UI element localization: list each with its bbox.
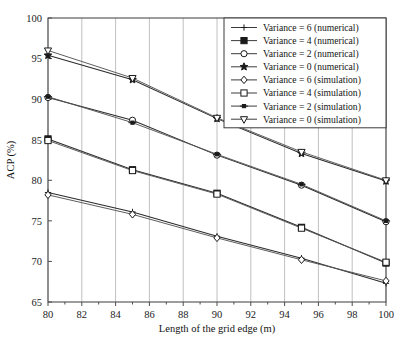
data-point-s5-p4 [383, 259, 389, 265]
y-tick-label: 100 [26, 13, 42, 24]
legend-label-4: Variance = 6 (simulation) [263, 74, 361, 86]
y-axis-title: ACP (%) [5, 140, 17, 179]
legend-label-6: Variance = 2 (simulation) [263, 101, 361, 113]
data-point-s5-p3 [298, 225, 304, 231]
x-tick-label: 100 [378, 309, 394, 320]
y-tick-label: 90 [32, 94, 43, 105]
x-tick-label: 90 [212, 309, 223, 320]
data-point-s5-p2 [214, 191, 220, 197]
x-tick-label: 94 [279, 309, 290, 320]
x-tick-label: 96 [313, 309, 324, 320]
data-point-s5-p0 [45, 137, 51, 143]
legend-label-3: Variance = 0 (numerical) [263, 61, 359, 73]
x-tick-label: 82 [77, 309, 88, 320]
legend-label-2: Variance = 2 (numerical) [263, 48, 359, 60]
x-tick-label: 92 [246, 309, 257, 320]
legend-label-7: Variance = 0 (simulation) [263, 114, 361, 126]
x-tick-label: 84 [110, 309, 121, 320]
line-chart: 8082848688909294969810065707580859095100… [0, 0, 400, 347]
legend-label-5: Variance = 4 (simulation) [263, 87, 361, 99]
data-point-s5-p1 [129, 167, 135, 173]
y-tick-label: 65 [32, 297, 43, 308]
legend-marker-circle-open [241, 51, 247, 57]
x-tick-label: 98 [347, 309, 358, 320]
y-tick-label: 75 [32, 216, 43, 227]
legend-marker-square-open [241, 90, 247, 96]
x-tick-label: 88 [178, 309, 189, 320]
y-tick-label: 80 [32, 175, 43, 186]
x-tick-label: 86 [144, 309, 155, 320]
y-tick-label: 85 [32, 135, 43, 146]
y-tick-label: 70 [32, 256, 43, 267]
x-tick-label: 80 [43, 309, 54, 320]
y-tick-label: 95 [32, 53, 43, 64]
legend-label-0: Variance = 6 (numerical) [263, 22, 359, 34]
legend-label-1: Variance = 4 (numerical) [263, 35, 359, 47]
legend-marker-square-solid [241, 38, 247, 44]
chart-figure: 8082848688909294969810065707580859095100… [0, 0, 400, 347]
x-axis-title: Length of the grid edge (m) [159, 323, 276, 335]
